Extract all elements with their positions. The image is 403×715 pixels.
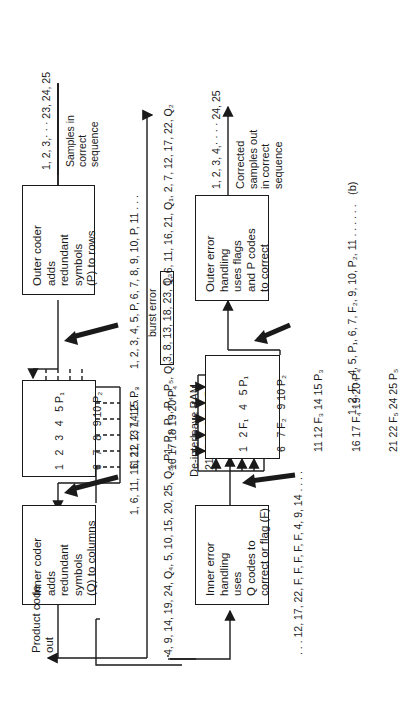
ram-row: 6 7 F₂ 9 10 P₂ (275, 369, 288, 452)
output-sequence: 1, 2, 3, 4,· · · · 24, 25 (210, 90, 222, 189)
outer-error-handling-box: Outer error handling uses flags and P co… (195, 195, 269, 301)
ram-row: 1 2 F₁ 4 5 P₁ (237, 369, 250, 452)
ram-grid: 1 2 F₁ 4 5 P₁ 6 7 F₂ 9 10 P₂ 11 12 F₃ 14… (212, 369, 403, 452)
outer-error-line: to correct (258, 228, 272, 292)
figure-label: (b) (346, 182, 358, 195)
corrected-label-line: in correct (259, 130, 272, 189)
outer-error-line: Outer error (204, 228, 218, 292)
outer-error-line: uses flags (231, 228, 245, 292)
ram-row: 21 22 F₅ 24 25 P₅ (387, 369, 400, 452)
deinterleave-ram-matrix: 1 2 F₁ 4 5 P₁ 6 7 F₂ 9 10 P₂ 11 12 F₃ 14… (205, 355, 280, 459)
corrected-label-line: samples out (247, 130, 260, 189)
corrected-label-line: sequence (272, 130, 285, 189)
outer-error-line: and P codes (245, 228, 259, 292)
decoder-row-sequence: 1, 2, F₁, 4, 5, P₁, 6, 7, F₂, 9, 10, P₂,… (346, 204, 358, 415)
ram-row: 11 12 F₃ 14 15 P₃ (312, 369, 325, 452)
corrected-label-line: Corrected (234, 130, 247, 189)
outer-error-line: handling (218, 228, 232, 292)
deinterleave-label: De-interleave RAM (188, 384, 200, 477)
corrected-samples-label: Corrected samples out in correct sequenc… (234, 130, 284, 189)
flagged-sequence: . . . 12, 17, 22, F, F, F, F, F, 4, 9, 1… (292, 471, 304, 655)
outer-error-handling-label: Outer error handling uses flags and P co… (204, 228, 272, 292)
